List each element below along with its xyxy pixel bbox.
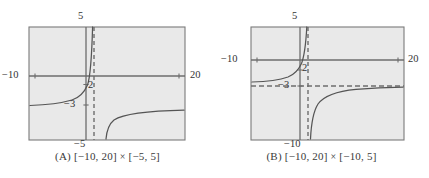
plot-b-label-top: 5 xyxy=(292,10,297,21)
panel-a-caption-domain: [−10, 20] xyxy=(74,150,117,162)
panel-a-caption-range: [−5, 5] xyxy=(129,150,160,162)
panel-b-caption-label: (B) xyxy=(267,150,282,162)
plot-b-label-y-inner-upper: 2 xyxy=(302,62,307,73)
panel-a-caption-times: × xyxy=(120,151,126,162)
plot-a-label-bottom: −5 xyxy=(74,138,85,149)
panel-a-caption-label: (A) xyxy=(55,150,71,162)
plot-b-graphic xyxy=(214,0,429,150)
plot-b-frame xyxy=(251,27,404,140)
panel-b-caption-domain: [−10, 20] xyxy=(285,150,328,162)
panel-b-caption: (B)[−10, 20] × [−10, 5] xyxy=(214,150,429,162)
panel-a-caption: (A)[−10, 20] × [−5, 5] xyxy=(0,150,215,162)
plot-b-label-bottom: −10 xyxy=(284,138,300,149)
plot-a-frame xyxy=(29,27,185,140)
panel-b: 5 −10 −10 20 2 −3 (B)[−10, 20] × [−10, 5… xyxy=(214,0,429,178)
plot-b-label-y-inner-lower: −3 xyxy=(278,79,289,90)
panel-b-caption-range: [−10, 5] xyxy=(339,150,376,162)
figure-two-graph-panels: 5 −5 −10 20 2 −3 (A)[−10, 20] × [−5, 5] xyxy=(0,0,429,178)
plot-a-label-y-inner-lower: −3 xyxy=(64,98,75,109)
plot-a-label-y-inner-upper: 2 xyxy=(88,79,93,90)
plot-a-label-top: 5 xyxy=(78,10,83,21)
panel-b-caption-times: × xyxy=(331,151,337,162)
plot-b-label-right: 20 xyxy=(408,53,419,64)
plot-b-label-left: −10 xyxy=(221,53,237,64)
plot-a-graphic xyxy=(0,0,215,150)
plot-a-label-left: −10 xyxy=(2,69,18,80)
panel-a: 5 −5 −10 20 2 −3 (A)[−10, 20] × [−5, 5] xyxy=(0,0,215,178)
plot-a-label-right: 20 xyxy=(190,69,201,80)
